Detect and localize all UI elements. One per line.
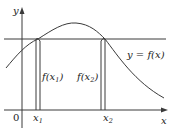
origin-label: 0 bbox=[13, 112, 19, 123]
y-axis-arrow-icon bbox=[20, 7, 25, 14]
x-axis-arrow-icon bbox=[161, 108, 168, 113]
strip-x1 bbox=[36, 38, 40, 110]
f-x2-label: f(x2) bbox=[76, 71, 98, 84]
x-axis-label: x bbox=[161, 115, 167, 126]
y-axis-label: y bbox=[12, 5, 19, 16]
x2-label: x2 bbox=[103, 112, 113, 125]
f-x1-label: f(x1) bbox=[41, 71, 63, 84]
curve-label: y = f(x) bbox=[126, 49, 165, 60]
function-diagram: y x 0 x1 x2 f(x1) f(x2) y = f(x) bbox=[0, 0, 169, 128]
function-curve bbox=[6, 23, 164, 98]
strip-x2 bbox=[101, 38, 105, 110]
x1-label: x1 bbox=[33, 112, 43, 125]
